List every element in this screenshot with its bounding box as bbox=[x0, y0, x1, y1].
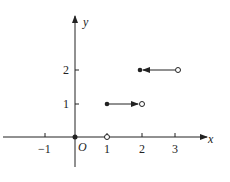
x-tick-label: 3 bbox=[172, 142, 178, 156]
y-ticks bbox=[75, 70, 79, 104]
y-tick-label: 1 bbox=[63, 97, 69, 111]
origin-label: O bbox=[78, 140, 87, 154]
y-axis-label: y bbox=[82, 15, 89, 29]
step-function-graph: −1 1 2 3 1 2 O x y bbox=[0, 0, 230, 182]
y-tick-label: 2 bbox=[63, 63, 69, 77]
closed-point-origin bbox=[73, 135, 78, 140]
plot-canvas: −1 1 2 3 1 2 O x y bbox=[0, 0, 230, 182]
segment-y2 bbox=[138, 68, 181, 73]
open-point-x1 bbox=[105, 135, 110, 140]
x-tick-label: −1 bbox=[38, 142, 51, 156]
x-ticks bbox=[45, 133, 175, 137]
x-tick-label: 1 bbox=[104, 142, 110, 156]
segment-y1 bbox=[105, 102, 145, 107]
x-tick-label: 2 bbox=[139, 142, 145, 156]
x-axis-label: x bbox=[207, 132, 214, 146]
